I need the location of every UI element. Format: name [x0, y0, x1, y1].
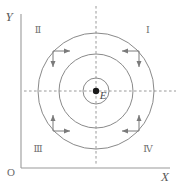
origin-label: O	[7, 166, 15, 178]
center-charge-dot	[93, 88, 99, 94]
y-axis-label: Y	[5, 9, 14, 24]
guide-lines-group	[24, 6, 176, 166]
arrow-pair-lower-right	[122, 115, 139, 131]
arrow-pair-upper-left	[53, 51, 70, 67]
figure-canvas: Y X O E Ⅰ Ⅱ Ⅲ Ⅳ	[0, 0, 179, 185]
quadrant-label-four: Ⅳ	[143, 144, 153, 154]
arrow-pair-lower-left	[53, 115, 70, 131]
quadrant-label-one: Ⅰ	[146, 25, 150, 35]
center-charge-label: E	[99, 89, 107, 101]
field-lines-figure: Y X O E Ⅰ Ⅱ Ⅲ Ⅳ	[0, 0, 179, 185]
x-axis-label: X	[160, 169, 170, 184]
quadrant-label-three: Ⅲ	[33, 144, 42, 154]
quadrant-label-two: Ⅱ	[35, 25, 41, 35]
arrow-pair-upper-right	[122, 51, 139, 67]
